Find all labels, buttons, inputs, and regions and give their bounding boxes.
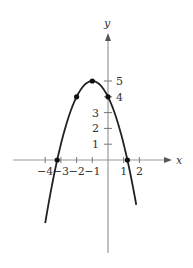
data-point — [125, 157, 130, 162]
data-point — [74, 94, 79, 99]
y-axis-arrow — [105, 33, 111, 41]
y-axis-label: y — [103, 17, 111, 30]
x-tick-label: −4 — [37, 165, 53, 178]
y-tick-label: 1 — [92, 138, 99, 151]
parabola-chart: −4−3−2−11212345 x y — [0, 0, 193, 268]
data-point — [105, 94, 110, 99]
y-tick-label: 3 — [92, 107, 99, 120]
y-tick-label: 5 — [116, 75, 123, 88]
y-tick-label: 2 — [92, 122, 99, 135]
x-tick-label: −2 — [68, 165, 84, 178]
data-point — [90, 78, 95, 83]
y-tick-label: 4 — [116, 91, 123, 104]
x-tick-label: 1 — [120, 165, 127, 178]
x-axis-arrow — [164, 157, 172, 163]
x-tick-label: −1 — [84, 165, 100, 178]
data-point — [55, 157, 60, 162]
x-tick-label: 2 — [136, 165, 143, 178]
x-axis-label: x — [176, 154, 183, 167]
